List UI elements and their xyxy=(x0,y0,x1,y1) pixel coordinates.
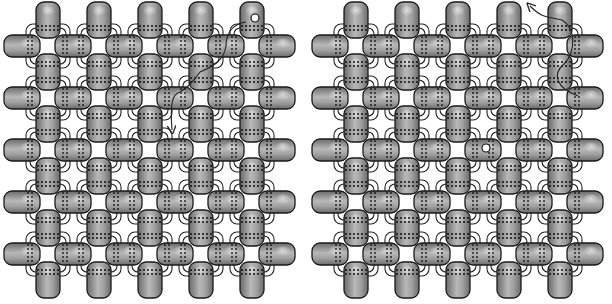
bead xyxy=(567,87,603,109)
bead xyxy=(363,87,399,109)
bead xyxy=(446,210,470,246)
bead xyxy=(395,54,419,90)
bead xyxy=(312,139,348,161)
bead xyxy=(106,87,142,109)
bead xyxy=(189,262,213,298)
bead xyxy=(259,35,295,57)
bead xyxy=(189,106,213,142)
bead xyxy=(363,191,399,213)
bead xyxy=(87,262,111,298)
bead xyxy=(138,262,162,298)
bead xyxy=(87,106,111,142)
bead xyxy=(567,243,603,265)
bead xyxy=(4,191,40,213)
bead xyxy=(344,54,368,90)
bead xyxy=(497,158,521,194)
bead xyxy=(87,2,111,38)
bead xyxy=(36,262,60,298)
bead xyxy=(208,243,244,265)
bead xyxy=(259,243,295,265)
bead xyxy=(106,35,142,57)
bead xyxy=(157,243,193,265)
bead xyxy=(138,106,162,142)
bead xyxy=(312,191,348,213)
bead xyxy=(465,35,501,57)
bead xyxy=(312,243,348,265)
bead xyxy=(36,210,60,246)
bead xyxy=(497,2,521,38)
bead xyxy=(414,87,450,109)
bead xyxy=(516,139,552,161)
bead xyxy=(87,54,111,90)
bead xyxy=(516,35,552,57)
bead xyxy=(497,106,521,142)
bead xyxy=(55,139,91,161)
bead xyxy=(344,262,368,298)
bead xyxy=(465,87,501,109)
bead xyxy=(259,87,295,109)
bead xyxy=(36,106,60,142)
bead xyxy=(157,139,193,161)
bead xyxy=(497,54,521,90)
bead xyxy=(446,2,470,38)
bead xyxy=(157,35,193,57)
bead xyxy=(157,191,193,213)
bead xyxy=(548,158,572,194)
bead xyxy=(363,139,399,161)
bead xyxy=(548,106,572,142)
bead xyxy=(36,2,60,38)
bead xyxy=(36,54,60,90)
bead xyxy=(344,158,368,194)
bead xyxy=(138,210,162,246)
bead xyxy=(106,243,142,265)
bead xyxy=(87,210,111,246)
bead xyxy=(240,158,264,194)
bead xyxy=(55,191,91,213)
bead xyxy=(395,106,419,142)
bead xyxy=(414,139,450,161)
bead xyxy=(189,2,213,38)
bead xyxy=(55,35,91,57)
bead xyxy=(259,139,295,161)
bead xyxy=(4,35,40,57)
bead xyxy=(363,243,399,265)
bead xyxy=(414,191,450,213)
bead xyxy=(497,262,521,298)
bead xyxy=(465,191,501,213)
bead xyxy=(344,210,368,246)
bead xyxy=(516,191,552,213)
bead xyxy=(548,210,572,246)
bead xyxy=(240,262,264,298)
bead xyxy=(414,35,450,57)
bead xyxy=(395,262,419,298)
bead xyxy=(395,158,419,194)
bead xyxy=(4,243,40,265)
bead xyxy=(189,158,213,194)
bead xyxy=(516,87,552,109)
bead xyxy=(240,106,264,142)
bead xyxy=(259,191,295,213)
bead xyxy=(446,106,470,142)
bead xyxy=(414,243,450,265)
bead xyxy=(567,191,603,213)
start-point-marker xyxy=(482,144,490,152)
bead xyxy=(446,54,470,90)
bead xyxy=(312,87,348,109)
bead xyxy=(36,158,60,194)
bead xyxy=(465,243,501,265)
bead xyxy=(208,87,244,109)
bead xyxy=(208,191,244,213)
bead xyxy=(516,243,552,265)
panel-left xyxy=(4,2,295,298)
bead xyxy=(55,243,91,265)
bead xyxy=(395,210,419,246)
bead xyxy=(189,210,213,246)
bead xyxy=(208,139,244,161)
bead xyxy=(363,35,399,57)
bead xyxy=(106,139,142,161)
diagram-canvas xyxy=(0,0,612,304)
bead xyxy=(446,262,470,298)
bead xyxy=(138,158,162,194)
bead xyxy=(446,158,470,194)
bead xyxy=(548,262,572,298)
